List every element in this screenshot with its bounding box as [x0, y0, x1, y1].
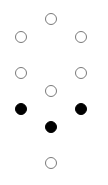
empty-circle-icon: [75, 31, 87, 43]
filled-circle-icon: [15, 103, 27, 115]
dot-diagram: [0, 0, 108, 185]
empty-circle-icon: [45, 85, 57, 97]
filled-circle-icon: [45, 121, 57, 133]
filled-circle-icon: [75, 103, 87, 115]
empty-circle-icon: [75, 67, 87, 79]
empty-circle-icon: [45, 157, 57, 169]
empty-circle-icon: [15, 31, 27, 43]
empty-circle-icon: [15, 67, 27, 79]
empty-circle-icon: [45, 13, 57, 25]
